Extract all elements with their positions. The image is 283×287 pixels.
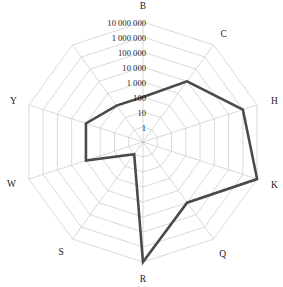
tick-label-1: 1 — [142, 123, 146, 133]
tick-label-10000: 10 000 — [122, 63, 146, 73]
figure-caption — [0, 280, 283, 287]
tick-label-1000: 1 000 — [127, 78, 146, 88]
axis-label-y: Y — [10, 96, 17, 106]
tick-label-1000000: 1 000 000 — [112, 33, 146, 43]
axis-label-k: K — [271, 180, 278, 190]
tick-label-100000: 100 000 — [118, 48, 146, 58]
axis-label-c: C — [221, 29, 227, 39]
tick-label-10000000: 10 000 000 — [107, 18, 146, 28]
grid-spoke — [143, 142, 214, 239]
axis-label-q: Q — [219, 249, 226, 259]
radial-tick-labels: 10 000 000 1 000 000 100 000 10 000 1 00… — [107, 18, 146, 133]
axis-label-s: S — [59, 247, 64, 257]
radar-chart: B C H K Q R S W Y 10 000 000 1 000 000 1… — [0, 0, 283, 287]
axis-label-h: H — [271, 96, 278, 106]
axis-label-b: B — [140, 1, 146, 11]
axis-label-w: W — [7, 179, 16, 189]
tick-label-10: 10 — [137, 108, 146, 118]
tick-label-100: 100 — [133, 93, 146, 103]
radar-chart-svg: B C H K Q R S W Y 10 000 000 1 000 000 1… — [0, 0, 283, 287]
